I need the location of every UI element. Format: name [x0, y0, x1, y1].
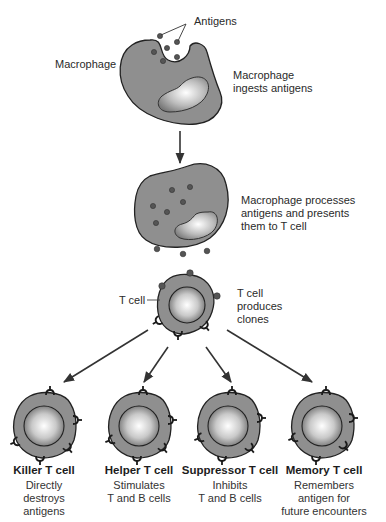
desc-line: Inhibits — [180, 479, 280, 492]
t-cell — [147, 270, 220, 340]
clone-caption-killer: Killer T cell Directly destroys antigens — [0, 464, 92, 518]
immune-response-diagram: Antigens Macrophage Macrophage ingests a… — [0, 0, 386, 522]
clone-caption-helper: Helper T cell Stimulates T and B cells — [91, 464, 187, 505]
caption-line: Macrophage — [233, 69, 313, 82]
clone-title: Helper T cell — [91, 464, 187, 476]
caption-line: clones — [237, 313, 282, 326]
t-cell-label: T cell — [119, 294, 145, 307]
clone-arrows — [64, 330, 312, 382]
caption-line: Macrophage processes — [241, 194, 355, 207]
caption-line: them to T cell — [241, 220, 355, 233]
clone-caption-suppressor: Suppressor T cell Inhibits T and B cells — [180, 464, 280, 505]
antigens-label: Antigens — [194, 15, 237, 28]
clone-description: Remembers antigen for future encounters — [274, 479, 374, 518]
clone-title: Suppressor T cell — [180, 464, 280, 476]
stage2-caption: Macrophage processes antigens and presen… — [241, 194, 355, 233]
stage1-caption: Macrophage ingests antigens — [233, 69, 313, 95]
caption-line: produces — [237, 300, 282, 313]
stage3-caption: T cell produces clones — [237, 287, 282, 326]
clone-description: Directly destroys antigens — [0, 479, 92, 518]
desc-line: future encounters — [274, 505, 374, 518]
clone-description: Stimulates T and B cells — [91, 479, 187, 505]
caption-line: ingests antigens — [233, 82, 313, 95]
macrophage-label: Macrophage — [55, 58, 116, 71]
desc-line: destroys — [0, 492, 92, 505]
clone-cell-memory — [287, 386, 358, 465]
macrophage-presenting — [135, 164, 229, 257]
desc-line: T and B cells — [91, 492, 187, 505]
clone-cell-suppressor — [193, 386, 266, 465]
desc-line: antigen for — [274, 492, 374, 505]
clone-cell-helper — [104, 386, 177, 465]
clone-caption-memory: Memory T cell Remembers antigen for futu… — [274, 464, 374, 518]
clone-description: Inhibits T and B cells — [180, 479, 280, 505]
macrophage-ingesting — [120, 24, 222, 124]
diagram-artwork — [0, 0, 386, 522]
desc-line: antigens — [0, 505, 92, 518]
clone-cell-killer — [9, 386, 82, 465]
clone-title: Memory T cell — [274, 464, 374, 476]
caption-line: antigens and presents — [241, 207, 355, 220]
desc-line: Stimulates — [91, 479, 187, 492]
clone-title: Killer T cell — [0, 464, 92, 476]
desc-line: Remembers — [274, 479, 374, 492]
caption-line: T cell — [237, 287, 282, 300]
desc-line: Directly — [0, 479, 92, 492]
desc-line: T and B cells — [180, 492, 280, 505]
